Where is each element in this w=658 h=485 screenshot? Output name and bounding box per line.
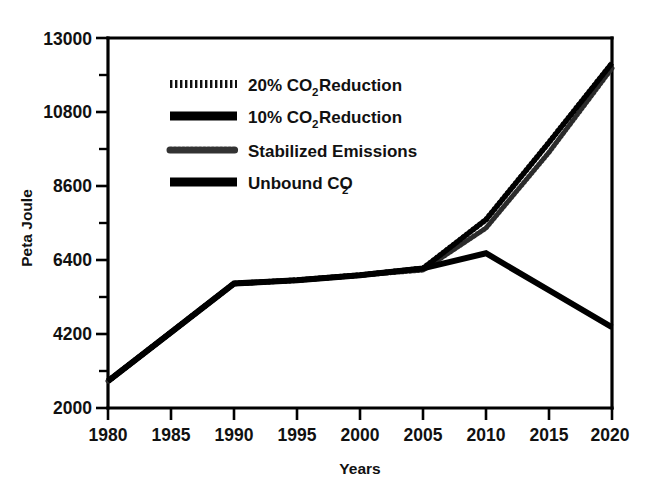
legend-label-unbound-subscript: 2	[342, 184, 348, 196]
x-tick-label-1985: 1985	[152, 425, 191, 445]
legend-label-10-percent-tail: Reduction	[319, 108, 402, 127]
x-tick-label-2015: 2015	[530, 425, 569, 445]
legend-label-20-percent-tail: Reduction	[319, 76, 402, 95]
y-tick-label-13000: 13000	[43, 29, 92, 49]
x-tick-label-2010: 2010	[467, 425, 506, 445]
legend-label-20-percent-main: 20% CO	[248, 76, 312, 95]
legend-label-stabilized-main: Stabilized Emissions	[248, 142, 417, 161]
x-tick-label-2020: 2020	[591, 425, 630, 445]
y-tick-label-8600: 8600	[53, 176, 92, 196]
y-tick-label-4200: 4200	[53, 324, 92, 344]
y-tick-label-2000: 2000	[53, 398, 92, 418]
y-axis-title: Peta Joule	[18, 189, 35, 267]
chart-figure: 2000 4200 6400 8600 10800 13000 1980 198…	[0, 0, 658, 485]
legend-label-10-percent-main: 10% CO	[248, 108, 312, 127]
chart-background	[0, 0, 658, 485]
legend-label-unbound-main: Unbound CO	[248, 174, 353, 193]
y-tick-label-10800: 10800	[43, 102, 92, 122]
legend-label-10-percent-subscript: 2	[312, 118, 318, 130]
x-axis-title: Years	[339, 460, 380, 477]
legend-label-20-percent-subscript: 2	[312, 86, 318, 98]
x-tick-label-1995: 1995	[278, 425, 317, 445]
x-tick-label-1980: 1980	[89, 425, 128, 445]
x-tick-label-2005: 2005	[404, 425, 443, 445]
y-tick-label-6400: 6400	[53, 250, 92, 270]
x-tick-label-1990: 1990	[215, 425, 254, 445]
x-axis-tick-labels: 1980 1985 1990 1995 2000 2005 2010 2015 …	[89, 425, 630, 445]
x-tick-label-2000: 2000	[341, 425, 380, 445]
line-chart: 2000 4200 6400 8600 10800 13000 1980 198…	[0, 0, 658, 485]
